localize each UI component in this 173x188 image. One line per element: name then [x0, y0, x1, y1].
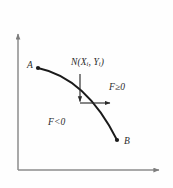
- point-b-label: B: [124, 137, 130, 147]
- node-label-mid: , Y: [89, 57, 99, 67]
- node-label: N(Xi, Yi): [71, 58, 104, 68]
- point-a-label: A: [27, 61, 33, 71]
- node-label-head: N(X: [71, 57, 87, 67]
- node-label-close: ): [101, 57, 104, 67]
- figure-container: A B N(Xi, Yi) F≥0 F<0: [0, 0, 173, 188]
- region-label-f-lt-zero: F<0: [48, 118, 65, 128]
- figure-canvas: [0, 0, 173, 188]
- region-label-f-ge-zero: F≥0: [109, 83, 125, 93]
- point-a-marker: [36, 66, 40, 70]
- point-b-marker: [115, 138, 119, 142]
- boundary-curve: [38, 68, 117, 140]
